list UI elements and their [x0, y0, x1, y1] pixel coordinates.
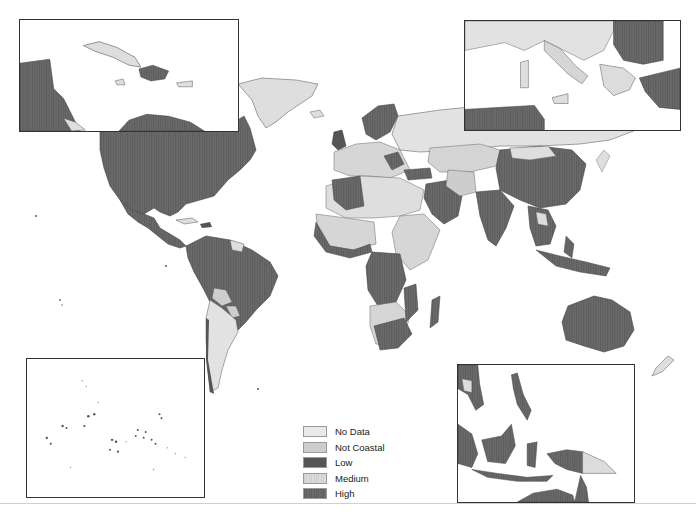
legend-swatch-no-data — [303, 426, 327, 437]
legend-swatch-high — [303, 488, 327, 499]
inset-southeast-asia — [457, 364, 635, 503]
uk — [332, 130, 346, 150]
legend-swatch-low — [303, 457, 327, 468]
india — [476, 190, 514, 246]
legend-label: High — [335, 488, 355, 499]
bottom-divider — [0, 503, 696, 504]
greenland — [238, 78, 318, 128]
legend-item-high: High — [303, 486, 385, 502]
legend-label: Not Coastal — [335, 442, 385, 453]
southeast-asia — [528, 206, 556, 246]
legend-item-medium: Medium — [303, 471, 385, 487]
central-asia — [428, 144, 500, 172]
map-legend: No Data Not Coastal Low Medium High — [303, 424, 385, 502]
mozambique — [404, 284, 418, 322]
inset-mediterranean — [464, 20, 681, 131]
australia — [562, 296, 634, 352]
legend-item-no-data: No Data — [303, 424, 385, 440]
inset-caribbean — [19, 19, 239, 132]
legend-label: Low — [335, 457, 352, 468]
legend-item-not-coastal: Not Coastal — [303, 440, 385, 456]
madagascar — [430, 296, 440, 328]
legend-label: Medium — [335, 473, 369, 484]
legend-label: No Data — [335, 426, 370, 437]
iceland — [310, 110, 324, 118]
legend-item-low: Low — [303, 455, 385, 471]
central-africa — [366, 252, 406, 306]
inset-pacific-islands — [26, 358, 205, 498]
turkey — [404, 168, 432, 180]
new-zealand — [652, 356, 674, 376]
japan — [596, 150, 610, 172]
legend-swatch-medium — [303, 473, 327, 484]
legend-swatch-not-coastal — [303, 442, 327, 453]
